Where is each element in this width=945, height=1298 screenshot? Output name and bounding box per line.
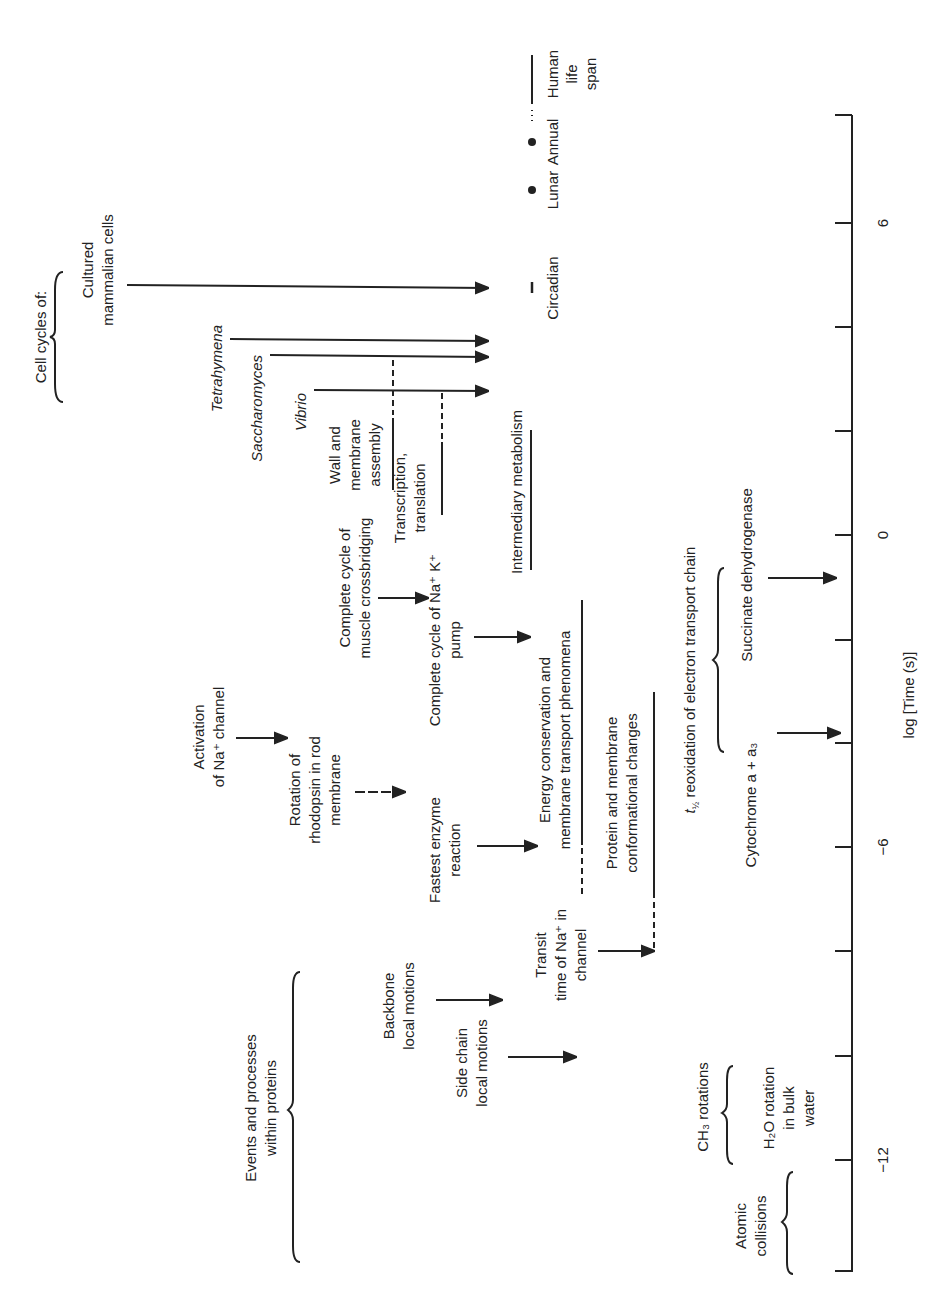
- tick-label-neg12: −12: [874, 1147, 891, 1172]
- na-k-pump-label-1: Complete cycle of Na⁺ K⁺: [426, 554, 443, 727]
- saccharomyces-arrow: [270, 355, 488, 357]
- muscle-crossbridging-label-2: muscle crossbridging: [356, 518, 373, 659]
- atomic-collisions-label-1: Atomic: [732, 1203, 749, 1249]
- human-lifespan-label-1: Human: [544, 50, 561, 98]
- etc-reoxidation-label: t½ reoxidation of electron transport cha…: [681, 547, 701, 814]
- wall-assembly-label-1: Wall and: [326, 426, 343, 484]
- wall-assembly-label-2: membrane: [346, 419, 363, 491]
- muscle-crossbridging-label-1: Complete cycle of: [336, 528, 353, 648]
- h2o-rotation-label-1: H₂O rotation: [760, 1067, 777, 1150]
- tetrahymena-arrow: [230, 339, 488, 341]
- tick-label-0: 0: [874, 531, 891, 539]
- transit-time-label-3: channel: [572, 929, 589, 982]
- rhodopsin-label-1: Rotation of: [286, 753, 303, 826]
- side-chain-motions-label-2: local motions: [473, 1019, 490, 1107]
- fastest-enzyme-label-1: Fastest enzyme: [426, 797, 443, 903]
- transcription-label-2: translation: [411, 463, 428, 532]
- rhodopsin-label-2: rhodopsin in rod: [306, 736, 323, 844]
- transit-time-label-1: Transit: [532, 932, 549, 978]
- annual-label: Annual: [544, 119, 561, 166]
- energy-conservation-label-2: membrane transport phenomena: [556, 630, 573, 849]
- rhodopsin-label-3: membrane: [326, 754, 343, 826]
- vibrio-arrow: [314, 390, 488, 391]
- axis-title: log [Time (s)]: [900, 652, 917, 739]
- time-axis: 6 0 −6 −12 log [Time (s)]: [835, 115, 917, 1272]
- atomic-collisions-label-2: collisions: [752, 1196, 769, 1257]
- transit-time-label-2: time of Na⁺ in: [552, 909, 569, 1001]
- saccharomyces-label: Saccharomyces: [248, 355, 265, 462]
- ch3-rotations-label: CH₃ rotations: [694, 1062, 711, 1151]
- intermediary-metabolism-label: Intermediary metabolism: [508, 410, 525, 574]
- human-lifespan-label-3: span: [582, 58, 599, 91]
- cultured-cells-label-2: mammalian cells: [99, 214, 116, 326]
- cultured-cells-label-1: Cultured: [79, 242, 96, 299]
- conformational-changes-label-2: conformational changes: [623, 713, 640, 872]
- human-lifespan-label-2: life: [563, 64, 580, 83]
- rhythms-group: Circadian Lunar Annual Human life span: [528, 50, 599, 320]
- fast-events-group: CH₃ rotations H₂O rotation in bulk water…: [694, 1062, 817, 1274]
- protein-events-heading-1: Events and processes: [242, 1034, 259, 1182]
- cultured-cells-arrow: [127, 285, 488, 288]
- cell-cycles-heading: Cell cycles of:: [32, 291, 49, 384]
- backbone-motions-label-2: local motions: [400, 962, 417, 1050]
- wall-assembly-label-3: assembly: [366, 423, 383, 487]
- protein-events-heading-2: within proteins: [262, 1060, 279, 1157]
- tick-label-6: 6: [874, 219, 891, 227]
- tetrahymena-label: Tetrahymena: [208, 325, 225, 412]
- energy-conservation-label-1: Energy conservation and: [536, 657, 553, 823]
- transcription-label-1: Transcription,: [391, 453, 408, 543]
- electron-transport-group: t½ reoxidation of electron transport cha…: [681, 488, 840, 867]
- side-chain-motions-label-1: Side chain: [453, 1028, 470, 1098]
- protein-events-group: Events and processes within proteins Bac…: [242, 962, 576, 1262]
- h2o-rotation-label-3: water: [800, 1090, 817, 1128]
- tick-label-neg6: −6: [874, 838, 891, 855]
- activation-na-channel-label-1: Activation: [190, 704, 207, 769]
- vibrio-label: Vibrio: [292, 393, 309, 431]
- succinate-dehydrogenase-label: Succinate dehydrogenase: [738, 488, 755, 661]
- fastest-enzyme-label-2: reaction: [446, 823, 463, 876]
- cytochrome-label: Cytochrome a + a₃: [742, 743, 759, 868]
- cell-cycles-group: Cell cycles of: Cultured mammalian cells…: [32, 214, 488, 462]
- activation-na-channel-label-2: of Na⁺ channel: [210, 687, 227, 788]
- h2o-rotation-label-2: in bulk: [780, 1086, 797, 1130]
- conformational-changes-label-1: Protein and membrane: [603, 717, 620, 870]
- lunar-label: Lunar: [544, 171, 561, 209]
- backbone-motions-label-1: Backbone: [380, 973, 397, 1040]
- time-scale-diagram: 6 0 −6 −12 log [Time (s)] Cell cycles of…: [0, 0, 945, 1298]
- circadian-label: Circadian: [544, 256, 561, 319]
- na-k-pump-label-2: pump: [446, 621, 463, 659]
